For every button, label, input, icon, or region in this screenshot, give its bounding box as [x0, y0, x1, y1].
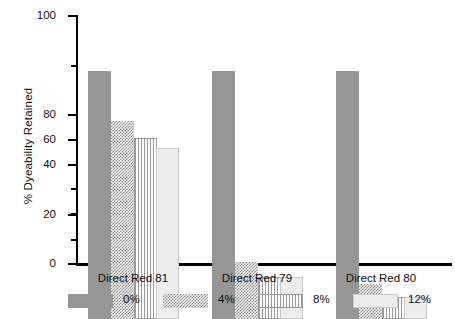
legend-label-3: 12%: [408, 293, 431, 305]
category-label-2: Direct Red 80: [311, 272, 451, 284]
bar-0-1[interactable]: [111, 121, 134, 319]
legend: 0% 4% 8% 12%: [0, 293, 455, 313]
category-label-1: Direct Red 79: [187, 272, 327, 284]
category-label-0: Direct Red 81: [63, 272, 203, 284]
y-tick-10: [71, 239, 76, 241]
legend-label-1: 4%: [218, 293, 235, 305]
y-tick-20: [68, 214, 76, 216]
y-tick-label-0: 0: [16, 257, 56, 269]
legend-swatch-1: [163, 294, 208, 308]
bar-0-2[interactable]: [134, 138, 157, 319]
legend-swatch-2: [258, 294, 303, 308]
y-tick-label-20: 20: [16, 208, 56, 220]
legend-swatch-3: [353, 294, 398, 308]
legend-swatch-0: [68, 294, 113, 308]
y-tick-0: [68, 263, 76, 265]
legend-label-0: 0%: [123, 293, 140, 305]
legend-label-2: 8%: [313, 293, 330, 305]
bar-chart: % Dyeability Retained 100 80 60 40 20 0: [0, 0, 455, 319]
